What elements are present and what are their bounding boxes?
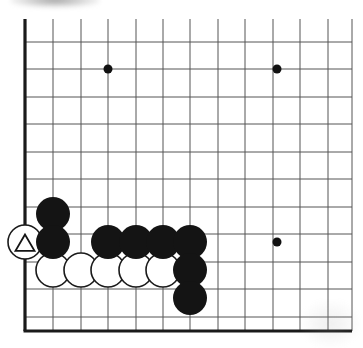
black-stone-2	[36, 225, 70, 259]
go-board-diagram	[0, 0, 363, 348]
star-point-lower-right	[273, 238, 282, 247]
go-board-canvas	[0, 0, 363, 348]
black-stone-8	[173, 281, 207, 315]
star-point-upper-right	[273, 65, 282, 74]
star-point-upper-left	[104, 65, 113, 74]
